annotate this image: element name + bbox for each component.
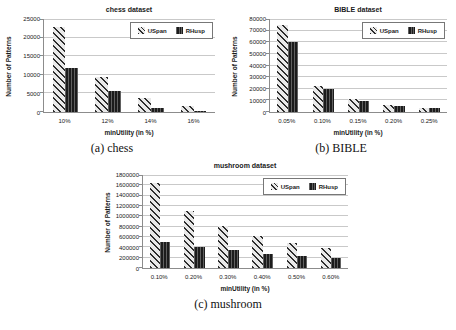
- y-tick-label: 10000: [249, 98, 266, 105]
- bar-rhusp: [194, 111, 207, 112]
- chart-title: BIBLE dataset: [269, 6, 447, 13]
- legend-entry-rhusp: RHusp: [176, 27, 205, 34]
- bar-uspan: [218, 226, 228, 268]
- y-tick-label: 80000: [249, 16, 266, 23]
- plot-area: USpanRHusp: [43, 19, 215, 113]
- bar-uspan: [348, 99, 359, 112]
- bar-uspan: [287, 243, 297, 268]
- x-axis-label: minUtility (in %): [142, 285, 348, 292]
- y-tick-label: 1400000: [116, 192, 139, 199]
- bar-rhusp: [297, 256, 307, 268]
- y-tick-label: 0: [37, 110, 40, 117]
- x-tick-label: 14%: [129, 118, 172, 124]
- legend-label-uspan: USpan: [148, 28, 167, 34]
- legend-entry-uspan: USpan: [271, 183, 300, 190]
- x-tick-label: 0.25%: [411, 118, 447, 124]
- x-tick-label: 0.40%: [245, 274, 279, 280]
- x-tick-label: 0.60%: [314, 274, 348, 280]
- plot-area: USpanRHusp: [142, 175, 348, 269]
- y-tick-label: 400000: [119, 245, 139, 252]
- y-tick-label: 10000: [23, 72, 40, 79]
- legend: USpanRHusp: [130, 22, 213, 39]
- y-axis-label: Number of Patterns: [102, 175, 113, 269]
- legend: USpanRHusp: [362, 22, 445, 39]
- bar-group: [177, 175, 211, 268]
- y-tick-label: 5000: [27, 91, 40, 98]
- bar-group: [211, 175, 245, 268]
- x-tick-label: 0.50%: [279, 274, 313, 280]
- y-tick-label: 25000: [23, 16, 40, 23]
- legend-label-rhusp: RHusp: [418, 28, 437, 34]
- y-axis-label-text: Number of Patterns: [5, 36, 12, 96]
- bar-uspan: [150, 183, 160, 268]
- y-tick-label: 1800000: [116, 172, 139, 179]
- bar-group: [44, 19, 87, 112]
- y-tick-label: 60000: [249, 39, 266, 46]
- legend-marker-rhusp-icon: [309, 183, 316, 190]
- bar-uspan: [313, 86, 324, 113]
- legend-entry-rhusp: RHusp: [408, 27, 437, 34]
- bar-rhusp: [151, 108, 164, 112]
- legend-label-uspan: USpan: [380, 28, 399, 34]
- y-axis-label-text: Number of Patterns: [104, 192, 111, 252]
- bar-uspan: [95, 77, 108, 112]
- x-axis-label: minUtility (in %): [43, 129, 215, 136]
- bar-uspan: [138, 98, 151, 112]
- bar-uspan: [184, 211, 194, 268]
- y-tick-labels: 0100002000030000400005000060000700008000…: [240, 19, 268, 113]
- chart-title: mushroom dataset: [142, 162, 348, 169]
- top-row: chess datasetNumber of PatternsUSpanRHus…: [0, 0, 456, 156]
- y-tick-labels: 0500010000150002000025000: [14, 19, 42, 113]
- bar-group: [270, 19, 305, 112]
- bar-rhusp: [228, 250, 238, 268]
- bar-uspan: [252, 236, 262, 268]
- x-tick-label: 16%: [172, 118, 215, 124]
- x-tick-label: 0.10%: [305, 118, 341, 124]
- legend-entry-uspan: USpan: [138, 27, 167, 34]
- bar-group: [143, 175, 177, 268]
- y-tick-label: 0: [263, 110, 266, 117]
- bar-group: [305, 19, 340, 112]
- y-tick-label: 20000: [23, 34, 40, 41]
- figure-panel: chess datasetNumber of PatternsUSpanRHus…: [0, 0, 456, 330]
- bar-uspan: [53, 27, 66, 112]
- y-tick-label: 15000: [23, 53, 40, 60]
- figure-caption-b: (b) BIBLE: [315, 141, 367, 156]
- legend-marker-uspan-icon: [138, 27, 145, 34]
- x-tick-label: 10%: [43, 118, 86, 124]
- y-axis-label-text: Number of Patterns: [231, 36, 238, 96]
- legend-label-rhusp: RHusp: [186, 28, 205, 34]
- bar-uspan: [181, 106, 194, 112]
- bar-group: [87, 19, 130, 112]
- y-tick-label: 1200000: [116, 203, 139, 210]
- y-tick-label: 1000000: [116, 213, 139, 220]
- x-tick-label: 0.20%: [376, 118, 412, 124]
- legend-marker-rhusp-icon: [408, 27, 415, 34]
- x-tick-label: 0.05%: [269, 118, 305, 124]
- bottom-row: mushroom datasetNumber of PatternsUSpanR…: [0, 162, 456, 312]
- y-tick-label: 1600000: [116, 182, 139, 189]
- bar-rhusp: [331, 258, 341, 268]
- bar-rhusp: [160, 242, 170, 268]
- mushroom-chart: mushroom datasetNumber of PatternsUSpanR…: [102, 162, 354, 294]
- x-tick-labels: 0.05%0.10%0.15%0.20%0.25%: [269, 118, 447, 124]
- legend-marker-rhusp-icon: [176, 27, 183, 34]
- legend-marker-uspan-icon: [271, 183, 278, 190]
- figure-bible: BIBLE datasetNumber of PatternsUSpanRHus…: [229, 6, 453, 156]
- legend: USpanRHusp: [263, 178, 346, 195]
- bar-rhusp: [429, 108, 440, 112]
- x-tick-label: 0.10%: [142, 274, 176, 280]
- chart-title: chess dataset: [43, 6, 215, 13]
- x-tick-labels: 10%12%14%16%: [43, 118, 215, 124]
- bar-uspan: [383, 105, 394, 112]
- y-tick-label: 0: [136, 266, 139, 273]
- figure-caption-a: (a) chess: [91, 141, 133, 156]
- y-tick-label: 600000: [119, 234, 139, 241]
- bible-chart: BIBLE datasetNumber of PatternsUSpanRHus…: [229, 6, 453, 138]
- legend-entry-rhusp: RHusp: [309, 183, 338, 190]
- legend-label-rhusp: RHusp: [319, 184, 338, 190]
- y-tick-label: 30000: [249, 74, 266, 81]
- y-tick-label: 800000: [119, 224, 139, 231]
- figure-mushroom: mushroom datasetNumber of PatternsUSpanR…: [102, 162, 354, 312]
- x-tick-label: 0.15%: [340, 118, 376, 124]
